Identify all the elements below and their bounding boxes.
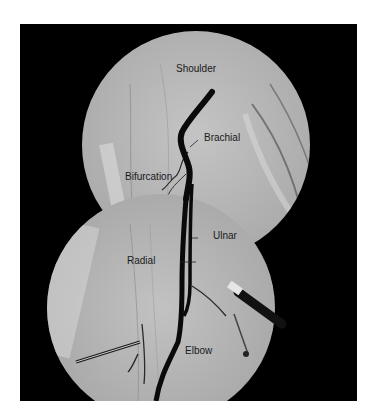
label-shoulder: Shoulder [176,64,216,74]
label-brachial: Brachial [204,133,240,143]
angiogram-frame: Shoulder Brachial Bifurcation Ulnar Radi… [20,24,357,401]
label-ulnar: Ulnar [213,231,237,241]
label-radial: Radial [127,256,155,266]
label-bifurcation: Bifurcation [125,172,172,182]
label-elbow: Elbow [185,346,212,356]
